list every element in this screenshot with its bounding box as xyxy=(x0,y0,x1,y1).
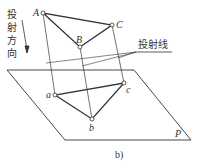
projection-plane xyxy=(7,70,191,140)
label-c: c xyxy=(126,85,130,95)
point-a xyxy=(53,93,57,97)
projection-line-A xyxy=(43,13,55,95)
point-A xyxy=(41,11,45,15)
leader-line-1 xyxy=(46,52,136,63)
label-B: B xyxy=(76,35,82,45)
projection-line-label: 投射线 xyxy=(138,40,168,50)
point-C xyxy=(110,23,114,27)
point-B xyxy=(78,45,82,49)
label-a: a xyxy=(46,90,51,100)
projection-diagram: 投射方向 投射线 A B C a b c P b) xyxy=(0,0,198,163)
figure-caption: b) xyxy=(115,149,123,160)
triangle-abc xyxy=(55,83,124,119)
direction-arrow xyxy=(22,20,27,50)
label-C: C xyxy=(116,20,123,30)
leader-line-2 xyxy=(82,52,136,66)
direction-label: 投射方向 xyxy=(6,8,18,60)
arrow-head-icon xyxy=(25,46,29,53)
diagram-lines xyxy=(0,0,198,163)
label-P: P xyxy=(175,129,181,139)
label-A: A xyxy=(33,8,39,18)
point-b xyxy=(90,117,94,121)
label-b: b xyxy=(89,123,94,133)
